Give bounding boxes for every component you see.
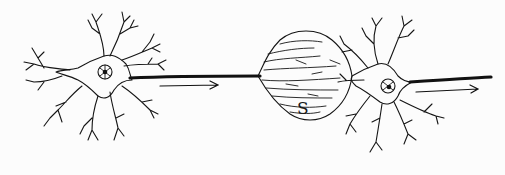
axon-left: [130, 76, 260, 78]
axon-right: [410, 77, 491, 82]
signal-direction-arrow-1: [160, 81, 218, 89]
neuron-diagram: S: [0, 0, 505, 175]
neuron-drawing: [0, 0, 505, 175]
synapse-label: S: [297, 98, 309, 118]
signal-direction-arrow-2: [416, 85, 478, 93]
right-neuron: [338, 16, 444, 152]
